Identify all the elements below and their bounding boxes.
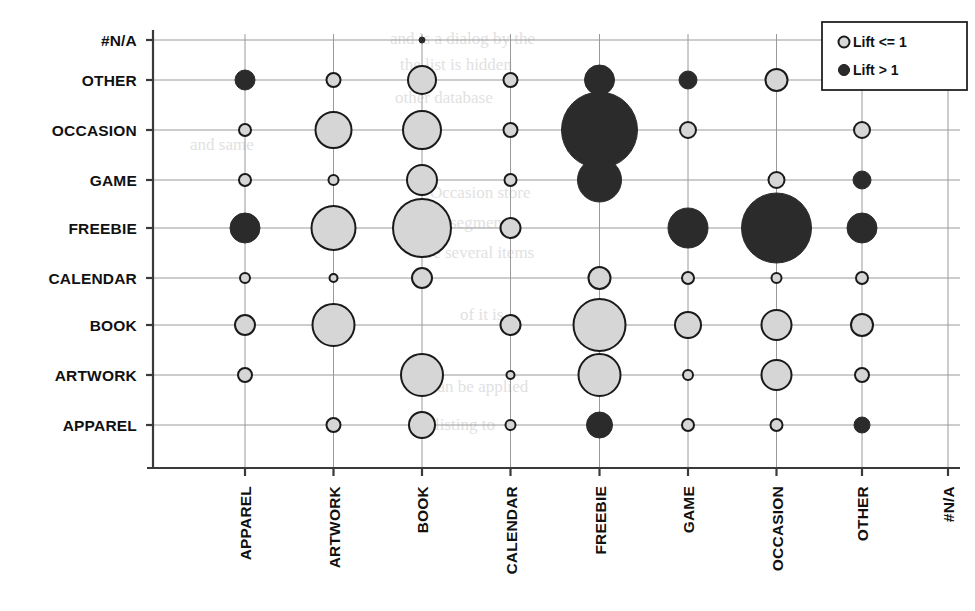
bubble-game-calendar[interactable] [682, 272, 694, 284]
bubble-calendar-book[interactable] [501, 315, 521, 335]
bubble-artwork-apparel[interactable] [327, 418, 341, 432]
bubble-other-apparel[interactable] [854, 417, 870, 433]
bubble-artwork-book[interactable] [313, 304, 355, 346]
svg-text:segment: segment [450, 213, 507, 232]
bubble-apparel-other[interactable] [235, 70, 255, 90]
bubble-game-apparel[interactable] [682, 419, 694, 431]
bubble-artwork-calendar[interactable] [330, 274, 338, 282]
y-axis-label-artwork: ARTWORK [55, 367, 138, 384]
bubble-other-game[interactable] [853, 171, 871, 189]
bubble-apparel-freebie[interactable] [230, 213, 260, 243]
bubble-freebie-book[interactable] [574, 299, 626, 351]
x-axis-label-freebie: FREEBIE [592, 486, 609, 555]
bubble-book-na[interactable] [419, 37, 425, 43]
x-axis-label-other: OTHER [854, 486, 871, 541]
bubble-game-book[interactable] [675, 312, 701, 338]
svg-text:can be applied: can be applied [430, 377, 529, 396]
y-axis-label-calendar: CALENDAR [48, 270, 137, 287]
bubble-game-artwork[interactable] [683, 370, 693, 380]
bubble-apparel-calendar[interactable] [240, 273, 250, 283]
grid-lines [153, 34, 960, 468]
axes [146, 30, 960, 476]
svg-text:and is a dialog by the: and is a dialog by the [390, 29, 535, 48]
bubble-other-book[interactable] [851, 314, 873, 336]
bubble-other-freebie[interactable] [847, 213, 877, 243]
bubble-freebie-artwork[interactable] [579, 354, 621, 396]
x-axis-label-book: BOOK [414, 485, 431, 533]
bubble-freebie-game[interactable] [578, 158, 622, 202]
bubble-game-other[interactable] [679, 71, 697, 89]
bubble-book-calendar[interactable] [412, 268, 432, 288]
bubble-book-occasion[interactable] [403, 111, 441, 149]
legend-label-lift-high: Lift > 1 [853, 62, 899, 78]
bubble-calendar-occasion[interactable] [504, 123, 518, 137]
y-axis-label-na: #N/A [101, 32, 137, 49]
bubble-book-game[interactable] [407, 165, 437, 195]
bubble-other-artwork[interactable] [855, 368, 869, 382]
y-axis-label-occasion: OCCASION [52, 122, 137, 139]
bubble-occasion-other[interactable] [766, 69, 788, 91]
x-axis-label-apparel: APPAREL [237, 486, 254, 560]
bubble-occasion-calendar[interactable] [772, 273, 782, 283]
bubble-artwork-freebie[interactable] [312, 206, 356, 250]
bubble-apparel-artwork[interactable] [238, 368, 252, 382]
bubble-artwork-occasion[interactable] [316, 112, 352, 148]
bubble-freebie-other[interactable] [585, 65, 615, 95]
bubble-calendar-artwork[interactable] [507, 371, 515, 379]
x-axis-tick-labels: APPARELARTWORKBOOKCALENDARFREEBIEGAMEOCC… [237, 485, 957, 574]
svg-text:Occasion store: Occasion store [430, 183, 531, 202]
legend-label-lift-low: Lift <= 1 [853, 34, 907, 50]
bubble-other-calendar[interactable] [856, 272, 868, 284]
svg-text:other database: other database [395, 88, 493, 107]
bubble-book-other[interactable] [408, 66, 436, 94]
x-axis-label-game: GAME [680, 486, 697, 533]
bubble-artwork-other[interactable] [327, 73, 341, 87]
bubble-book-apparel[interactable] [409, 412, 435, 438]
bubble-calendar-other[interactable] [504, 73, 518, 87]
y-axis-label-game: GAME [90, 172, 137, 189]
bubble-calendar-apparel[interactable] [506, 420, 516, 430]
chart-legend: Lift <= 1Lift > 1 [822, 22, 967, 90]
y-axis-tick-labels: #N/AOTHEROCCASIONGAMEFREEBIECALENDARBOOK… [48, 32, 137, 434]
bubble-apparel-occasion[interactable] [239, 124, 251, 136]
svg-text:and same: and same [190, 135, 254, 154]
bubble-occasion-apparel[interactable] [771, 419, 783, 431]
bubble-freebie-calendar[interactable] [589, 267, 611, 289]
y-axis-label-apparel: APPAREL [63, 417, 137, 434]
chart-canvas: and is a dialog by thethe list is hidden… [0, 0, 975, 611]
y-axis-label-freebie: FREEBIE [68, 220, 137, 237]
bubble-calendar-freebie[interactable] [501, 218, 521, 238]
x-axis-label-artwork: ARTWORK [326, 485, 343, 568]
bubble-apparel-book[interactable] [235, 315, 255, 335]
bubble-book-freebie[interactable] [393, 199, 451, 257]
y-axis-label-book: BOOK [90, 317, 138, 334]
x-axis-label-na: #N/A [940, 486, 957, 522]
bubble-other-occasion[interactable] [854, 122, 870, 138]
legend-box [822, 22, 967, 90]
bubble-occasion-book[interactable] [762, 310, 792, 340]
y-axis-label-other: OTHER [82, 72, 137, 89]
bubble-game-freebie[interactable] [668, 208, 708, 248]
bubble-apparel-game[interactable] [239, 174, 251, 186]
bubble-occasion-freebie[interactable] [742, 193, 812, 263]
legend-marker-lift-low [839, 37, 850, 48]
data-bubbles [230, 37, 877, 438]
bubble-chart: and is a dialog by thethe list is hidden… [0, 0, 975, 611]
bubble-freebie-apparel[interactable] [587, 412, 613, 438]
bubble-book-artwork[interactable] [401, 354, 443, 396]
bubble-freebie-occasion[interactable] [562, 92, 638, 168]
x-axis-label-calendar: CALENDAR [503, 486, 520, 575]
bubble-game-occasion[interactable] [680, 122, 696, 138]
bubble-occasion-artwork[interactable] [762, 360, 792, 390]
x-axis-label-occasion: OCCASION [769, 486, 786, 571]
legend-marker-lift-high [839, 65, 850, 76]
bubble-calendar-game[interactable] [505, 174, 517, 186]
bubble-occasion-game[interactable] [769, 172, 785, 188]
svg-text:of it is: of it is [460, 305, 503, 324]
bubble-artwork-game[interactable] [329, 175, 339, 185]
